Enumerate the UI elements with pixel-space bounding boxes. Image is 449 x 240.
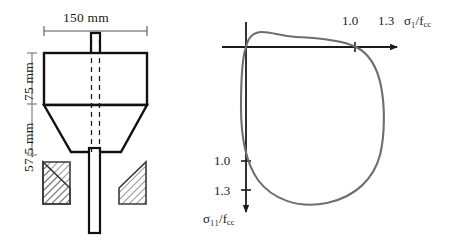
y-axis-label-main: σ₁₁/f [203, 211, 227, 226]
failure-envelope-curve [241, 32, 384, 205]
y-axis-label-subscript: cc [227, 217, 235, 227]
x-tick-label-1-3: 1.3 [378, 14, 394, 27]
y-tick-label-1-0: 1.0 [214, 154, 230, 167]
x-axis-label-subscript: cc [423, 19, 431, 29]
x-axis-label: σ₁/fcc [404, 14, 431, 28]
y-tick-label-1-3: 1.3 [214, 184, 230, 197]
x-axis-label-main: σ₁/f [404, 13, 423, 28]
figure-canvas: 150 mm 75 mm 57.5 mm 1.0 1.3 σ₁/fcc 1.0 … [0, 0, 449, 240]
y-axis-label: σ₁₁/fcc [203, 212, 235, 226]
biaxial-failure-envelope-plot [0, 0, 449, 240]
x-tick-label-1-0: 1.0 [342, 14, 358, 27]
